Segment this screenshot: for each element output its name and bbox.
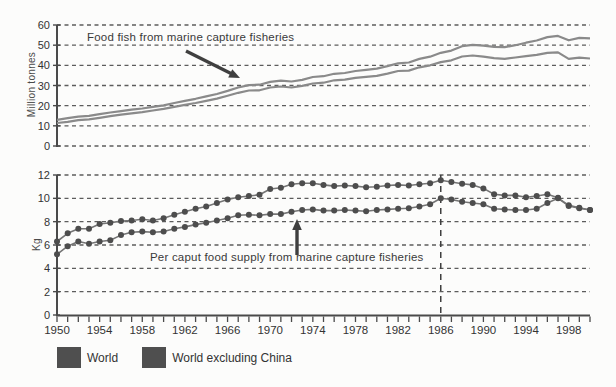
series-marker-world-excluding-china [235,194,241,200]
series-marker-world-excluding-china [427,180,433,186]
series-marker-world-excluding-china [257,192,263,198]
series-marker-world [331,208,337,214]
series-marker-world [75,239,81,245]
x-tick-label: 1954 [87,324,113,336]
series-marker-world [491,206,497,212]
series-marker-world [257,212,263,218]
series-marker-world [299,207,305,213]
y-tick-label: 4 [44,262,50,274]
legend: World World excluding China [57,347,292,368]
legend-label-world: World [87,351,118,365]
y-tick-label: 12 [38,169,50,181]
series-marker-world-excluding-china [459,181,465,187]
series-marker-world [470,200,476,206]
series-marker-world [480,201,486,207]
series-marker-world [523,207,529,213]
legend-item-world: World [57,347,118,368]
y-tick-label: 8 [44,216,50,228]
series-marker-world [193,222,199,228]
series-marker-world [502,206,508,212]
series-marker-world-excluding-china [321,182,327,188]
series-marker-world [438,195,444,201]
series-marker-world [54,251,60,257]
series-marker-world-excluding-china [118,218,124,224]
series-marker-world [65,243,71,249]
series-marker-world [555,195,561,201]
series-marker-world [321,208,327,214]
series-marker-world-excluding-china [374,184,380,190]
y-tick-label: 20 [38,100,50,112]
series-marker-world-excluding-china [182,209,188,215]
bottom-annotation-arrowhead-icon [292,219,302,230]
series-marker-world-excluding-china [363,184,369,190]
x-tick-label: 1970 [257,324,283,336]
series-marker-world-excluding-china [331,183,337,189]
y-tick-label: 40 [38,59,50,71]
bottom-chart-y-axis-label: Kg [31,225,42,265]
series-marker-world-excluding-china [438,177,444,183]
series-marker-world-excluding-china [225,197,231,203]
series-marker-world-excluding-china [86,226,92,232]
series-marker-world [129,229,135,235]
series-marker-world [235,212,241,218]
series-marker-world-excluding-china [480,185,486,191]
series-marker-world [544,200,550,206]
series-marker-world-excluding-china [406,183,412,189]
series-marker-world-excluding-china [512,192,518,198]
y-tick-label: 10 [38,120,50,132]
series-marker-world-excluding-china [97,221,103,227]
series-marker-world-excluding-china [75,226,81,232]
top-chart-y-axis-label: Million tonnes [26,25,37,145]
series-marker-world-excluding-china [203,204,209,210]
x-tick-label: 1978 [343,324,369,336]
series-marker-world [107,237,113,243]
series-marker-world [289,209,295,215]
chart-canvas: 0102030405060024681012195019541958196219… [0,0,616,345]
series-marker-world-excluding-china [246,193,252,199]
series-marker-world-excluding-china [54,239,60,245]
series-marker-world [395,206,401,212]
top-chart-title: Food fish from marine capture fisheries [87,31,294,43]
series-marker-world-excluding-china [448,179,454,185]
series-marker-world-excluding-china [491,191,497,197]
series-marker-world [459,199,465,205]
series-marker-world [448,197,454,203]
series-marker-world-excluding-china [129,218,135,224]
series-marker-world [385,206,391,212]
series-marker-world [150,229,156,235]
series-marker-world [512,207,518,213]
series-marker-world-excluding-china [139,216,145,222]
series-marker-world [246,212,252,218]
x-tick-label: 1950 [44,324,70,336]
y-tick-label: 0 [44,140,50,152]
fisheries-supply-figure: 0102030405060024681012195019541958196219… [0,0,616,387]
y-tick-label: 10 [38,192,50,204]
series-marker-world [214,218,220,224]
series-marker-world-excluding-china [544,191,550,197]
y-tick-label: 30 [38,80,50,92]
y-tick-label: 6 [44,239,50,251]
series-marker-world [416,204,422,210]
series-line-world [57,198,590,254]
series-marker-world-excluding-china [107,220,113,226]
series-marker-world-excluding-china [342,183,348,189]
series-marker-world [587,207,593,213]
series-marker-world-excluding-china [416,181,422,187]
series-marker-world-excluding-china [385,183,391,189]
legend-label-world-excluding-china: World excluding China [172,351,292,365]
series-marker-world-excluding-china [289,181,295,187]
series-marker-world-excluding-china [214,200,220,206]
series-marker-world-excluding-china [171,212,177,218]
series-marker-world-excluding-china [470,182,476,188]
series-marker-world-excluding-china [193,206,199,212]
top-annotation-arrow [186,51,231,74]
series-marker-world [534,206,540,212]
y-tick-label: 0 [44,309,50,321]
x-tick-label: 1966 [215,324,241,336]
x-tick-label: 1958 [129,324,155,336]
series-marker-world-excluding-china [310,180,316,186]
series-marker-world [139,229,145,235]
series-marker-world-excluding-china [161,215,167,221]
y-tick-label: 2 [44,286,50,298]
x-tick-label: 1974 [300,324,326,336]
